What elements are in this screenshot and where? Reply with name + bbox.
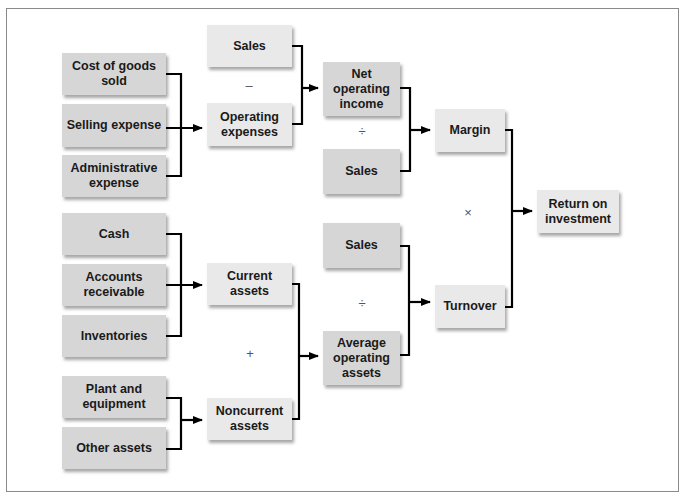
multiply-operator: × xyxy=(458,205,478,220)
node-selling-expense: Selling expense xyxy=(62,104,166,147)
node-sales-margin: Sales xyxy=(323,149,400,194)
node-sales-turnover: Sales xyxy=(323,223,400,268)
node-turnover: Turnover xyxy=(435,285,505,328)
node-sales-top: Sales xyxy=(207,25,292,67)
node-current-assets: Current assets xyxy=(207,263,292,305)
node-administrative-expense: Administrative expense xyxy=(62,155,166,197)
node-inventories: Inventories xyxy=(62,315,166,357)
node-plant-and-equipment: Plant and equipment xyxy=(62,376,166,418)
node-cost-of-goods-sold: Cost of goods sold xyxy=(62,53,166,95)
node-net-operating-income: Net operating income xyxy=(323,62,400,116)
node-cash: Cash xyxy=(62,213,166,255)
node-average-operating-assets: Average operating assets xyxy=(323,331,400,385)
minus-operator: – xyxy=(239,78,259,93)
node-margin: Margin xyxy=(435,109,505,152)
divide-operator-margin: ÷ xyxy=(352,124,372,139)
node-operating-expenses: Operating expenses xyxy=(207,103,292,146)
node-noncurrent-assets: Noncurrent assets xyxy=(207,398,292,440)
divide-operator-turnover: ÷ xyxy=(352,296,372,311)
node-return-on-investment: Return on investment xyxy=(537,190,619,233)
plus-operator: + xyxy=(240,346,260,361)
node-other-assets: Other assets xyxy=(62,427,166,469)
node-accounts-receivable: Accounts receivable xyxy=(62,264,166,306)
